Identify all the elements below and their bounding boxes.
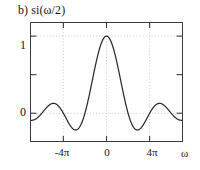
page-title: b) si(ω/2)	[18, 3, 65, 17]
figure-panel: b) si(ω/2) 1 0 -4π 0 4π ω	[0, 0, 200, 170]
plot-canvas	[31, 23, 182, 141]
y-tick-label-0: 0	[8, 106, 26, 118]
x-tick-label-4pi: 4π	[135, 146, 169, 158]
vertical-gridlines	[63, 23, 149, 141]
horizontal-gridlines	[31, 36, 182, 113]
sinc-curve	[31, 36, 182, 130]
x-axis-label: ω	[181, 147, 188, 159]
plot-frame	[30, 22, 183, 142]
x-tick-label-neg-4pi: -4π	[45, 146, 79, 158]
y-tick-label-1: 1	[8, 39, 26, 51]
x-tick-label-0: 0	[90, 146, 124, 158]
